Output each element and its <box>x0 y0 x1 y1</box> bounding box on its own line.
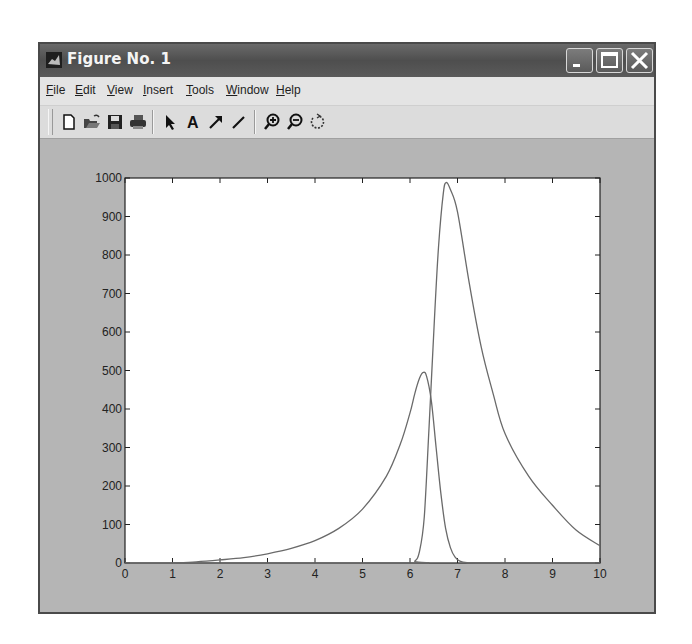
y-tick-label: 400 <box>102 402 122 416</box>
x-tick-label: 10 <box>593 567 607 581</box>
matlab-logo-icon <box>46 52 62 68</box>
toolbar-separator <box>254 110 256 134</box>
close-icon <box>627 49 652 72</box>
y-tick-label: 200 <box>102 479 122 493</box>
window-title: Figure No. 1 <box>67 50 171 68</box>
menu-edit[interactable]: Edit <box>75 83 96 97</box>
select-arrow-icon[interactable] <box>160 112 180 132</box>
insert-text-icon[interactable]: A <box>183 112 203 132</box>
zoom-in-icon[interactable] <box>262 112 282 132</box>
y-tick-label: 800 <box>102 248 122 262</box>
x-tick-label: 3 <box>264 567 271 581</box>
figure-window: Figure No. 1 File Edit View Insert Tools… <box>38 42 656 614</box>
x-tick-label: 7 <box>454 567 461 581</box>
insert-arrow-icon[interactable] <box>206 112 226 132</box>
menu-bar: File Edit View Insert Tools Window Help <box>40 77 654 106</box>
axes-area[interactable] <box>125 178 600 563</box>
minimize-button[interactable] <box>566 48 593 73</box>
x-tick-label: 5 <box>359 567 366 581</box>
x-tick-label: 4 <box>312 567 319 581</box>
new-figure-icon[interactable] <box>59 112 79 132</box>
x-tick-label: 1 <box>169 567 176 581</box>
maximize-icon <box>597 49 622 72</box>
y-tick-label: 1000 <box>95 171 122 185</box>
print-icon[interactable] <box>128 112 148 132</box>
figure-canvas: 0123456789100100200300400500600700800900… <box>40 139 654 612</box>
zoom-out-icon[interactable] <box>285 112 305 132</box>
rotate-3d-icon[interactable] <box>308 112 328 132</box>
minimize-icon <box>567 49 592 72</box>
x-tick-label: 6 <box>407 567 414 581</box>
x-tick-label: 2 <box>217 567 224 581</box>
y-tick-label: 100 <box>102 518 122 532</box>
toolbar-separator <box>152 110 154 134</box>
close-button[interactable] <box>626 48 653 73</box>
title-bar[interactable]: Figure No. 1 <box>40 44 654 77</box>
menu-window[interactable]: Window <box>226 83 269 97</box>
menu-help[interactable]: Help <box>276 83 301 97</box>
y-tick-label: 900 <box>102 210 122 224</box>
open-file-icon[interactable] <box>82 112 102 132</box>
menu-insert[interactable]: Insert <box>143 83 173 97</box>
toolbar-grip[interactable] <box>48 109 53 135</box>
y-tick-label: 0 <box>115 556 122 570</box>
maximize-button[interactable] <box>596 48 623 73</box>
svg-text:A: A <box>187 114 199 131</box>
line-plot[interactable]: 0123456789100100200300400500600700800900… <box>40 139 654 612</box>
y-tick-label: 300 <box>102 441 122 455</box>
save-icon[interactable] <box>105 112 125 132</box>
menu-file[interactable]: File <box>46 83 65 97</box>
y-tick-label: 600 <box>102 325 122 339</box>
y-tick-label: 700 <box>102 287 122 301</box>
y-tick-label: 500 <box>102 364 122 378</box>
menu-tools[interactable]: Tools <box>186 83 214 97</box>
x-tick-label: 8 <box>502 567 509 581</box>
toolbar: A <box>40 106 654 139</box>
insert-line-icon[interactable] <box>229 112 249 132</box>
x-tick-label: 9 <box>549 567 556 581</box>
menu-view[interactable]: View <box>107 83 133 97</box>
x-tick-label: 0 <box>122 567 129 581</box>
